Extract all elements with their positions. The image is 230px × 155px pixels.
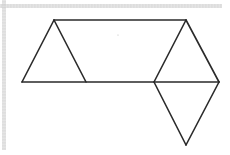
bottom-triangle-left-side	[154, 82, 186, 145]
diagram-segments	[22, 20, 219, 145]
speck-dot	[117, 34, 118, 35]
left-triangle-right-side	[54, 20, 86, 82]
geometric-net-diagram	[0, 0, 230, 155]
right-triangle-right-side	[186, 20, 219, 82]
bottom-triangle-right-side	[186, 82, 219, 145]
left-triangle-left-side	[22, 20, 54, 82]
right-triangle-left-side	[154, 20, 186, 82]
